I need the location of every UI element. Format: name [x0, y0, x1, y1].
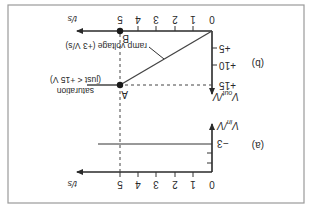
- point-a-marker: [117, 82, 123, 88]
- panel-b-x-axis-label: t/s: [67, 14, 77, 24]
- tick-label: 1: [190, 14, 196, 25]
- panel-a-label: (a): [252, 140, 264, 151]
- tick-label: 0: [209, 14, 215, 25]
- panel-b: (b) Vout/V 0 1 2 3 4 5 t/s +5: [50, 14, 264, 102]
- saturation-note: (just < +15 V): [50, 75, 101, 85]
- tick-label: 4: [135, 179, 141, 190]
- tick-label: 5: [117, 179, 123, 190]
- tick-label: 3: [153, 14, 159, 25]
- tick-label: +10: [219, 60, 236, 71]
- ramp-leader-line: [149, 47, 164, 59]
- panel-b-y-tick-labels: +5 +10 +15: [219, 43, 236, 91]
- panel-b-x-tick-labels: 0 1 2 3 4 5: [117, 14, 215, 25]
- point-a-label: A: [121, 89, 128, 100]
- tick-label: 2: [172, 179, 178, 190]
- panel-a-x-tick-labels: 0 1 2 3 4 5: [117, 179, 215, 190]
- panel-a-y-tick-label: −3: [217, 138, 229, 149]
- tick-label: 3: [153, 179, 159, 190]
- saturation-annotation: saturation: [56, 86, 94, 96]
- panel-b-label: (b): [252, 58, 264, 69]
- panel-b-y-axis-label: Vout/V: [212, 90, 239, 102]
- figure-container: (a) 0 1 2 3 4 5 t/s −3: [0, 0, 309, 210]
- tick-label: 1: [190, 179, 196, 190]
- tick-label: +5: [219, 43, 231, 54]
- tick-label: 4: [135, 14, 141, 25]
- panel-a-x-axis-label: t/s: [67, 179, 77, 189]
- figure-svg: (a) 0 1 2 3 4 5 t/s −3: [0, 0, 309, 210]
- tick-label: 0: [209, 179, 215, 190]
- ramp-annotation: ramp voltage (+3 V/s): [65, 41, 147, 51]
- ramp-line: [120, 31, 212, 85]
- panel-a-y-axis-label: Vin/V: [216, 119, 239, 131]
- tick-label: 2: [172, 14, 178, 25]
- tick-label: 5: [117, 14, 123, 25]
- tick-label: +15: [219, 80, 236, 91]
